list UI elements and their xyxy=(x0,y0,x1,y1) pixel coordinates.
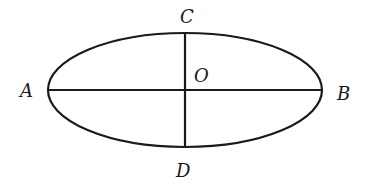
label-d: D xyxy=(175,160,191,181)
label-o-center: O xyxy=(194,65,209,86)
label-c: C xyxy=(180,6,194,27)
label-a: A xyxy=(18,80,33,101)
ellipse-diagram: A B C D O xyxy=(0,0,365,191)
label-b: B xyxy=(336,83,350,104)
